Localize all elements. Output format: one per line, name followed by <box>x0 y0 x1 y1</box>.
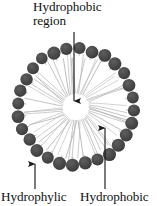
hydrophylic-head <box>73 42 85 54</box>
hydrophylic-head <box>120 129 133 142</box>
hydrophylic-head <box>127 92 139 104</box>
micelle-diagram-canvas <box>0 0 157 206</box>
hydrophylic-head <box>128 104 140 116</box>
hydrophylic-head <box>16 123 28 135</box>
hydrophylic-head <box>91 153 103 165</box>
hydrophylic-head <box>123 79 136 92</box>
hydrophylic-head <box>79 156 92 169</box>
hydrophylic-label: Hydrophylic <box>1 190 67 204</box>
hydrophylic-head <box>86 46 99 59</box>
micelle-diagram-figure: Hydrophobic region Hydrophylic Hydrophob… <box>0 0 157 206</box>
hydrophobic-core <box>64 95 89 120</box>
hydrophylic-head <box>30 144 43 157</box>
hydrophylic-head <box>53 157 66 170</box>
hydrophylic-head <box>118 67 130 79</box>
hydrophylic-head <box>42 152 54 164</box>
hydrophylic-head <box>98 49 111 62</box>
hydrophobic-label: Hydrophobic <box>80 190 149 204</box>
title-line-2: region <box>33 14 102 28</box>
title-line-1: Hydrophobic <box>33 0 102 14</box>
hydrophylic-head <box>108 57 121 70</box>
hydrophylic-head <box>23 133 35 145</box>
page-title: Hydrophobic region <box>33 0 102 28</box>
hydrophylic-head <box>66 159 79 172</box>
hydrophylic-head <box>20 73 32 85</box>
hydrophylic-head <box>12 98 24 110</box>
hydrophylic-head <box>125 117 138 130</box>
hydrophylic-head <box>36 53 48 65</box>
hydrophylic-head <box>14 85 26 97</box>
hydrophylic-head <box>47 47 60 60</box>
hydrophylic-head <box>60 43 72 55</box>
hydrophylic-head <box>12 110 25 123</box>
hydrophylic-head <box>27 62 39 74</box>
